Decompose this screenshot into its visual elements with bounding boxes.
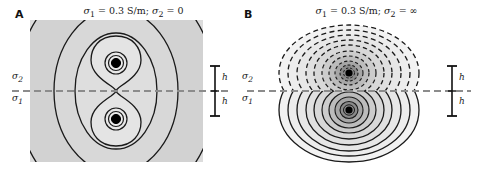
panel-a-region-upper-sub: 2 (18, 75, 23, 84)
figure-root: A σ1 = 0.3 S/m; σ2 = 0 (0, 0, 478, 171)
panel-a-source-lower (111, 114, 120, 123)
panel-a-source-upper (111, 58, 120, 67)
panel-a-h-label-lower: h (222, 97, 228, 106)
panel-b-h-label-lower: h (459, 97, 465, 106)
panel-b-scale-bar (447, 66, 457, 116)
panel-b-sigma1-region-label: σ1 (242, 94, 253, 105)
panel-b-region-lower-sub: 1 (248, 97, 253, 106)
panel-b-h-label-upper: h (459, 73, 465, 82)
panel-a-sigma2-region-label: σ2 (12, 72, 23, 83)
panel-a-region-lower-sub: 1 (18, 97, 23, 106)
panel-a-sigma1-region-label: σ1 (12, 94, 23, 105)
panel-a-scale-bar (210, 66, 220, 116)
panel-b-source-upper (345, 69, 352, 76)
panel-b-sigma2-region-label: σ2 (242, 72, 253, 83)
panel-b-source-lower (345, 106, 352, 113)
panel-b-region-upper-sub: 2 (248, 75, 253, 84)
panel-a-h-label-upper: h (222, 73, 228, 82)
panel-b-plot (239, 0, 478, 171)
panel-b: B σ1 = 0.3 S/m; σ2 = ∞ (239, 0, 478, 171)
panel-a-plot (0, 0, 239, 171)
panel-a-contours (16, 0, 216, 171)
panel-a: A σ1 = 0.3 S/m; σ2 = 0 (0, 0, 239, 171)
